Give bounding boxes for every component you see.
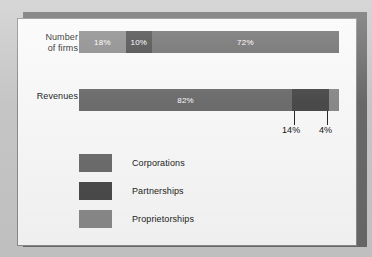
legend-swatch-proprietorships bbox=[79, 210, 112, 228]
bar-revenues: 82% 14% 4% bbox=[79, 89, 339, 111]
bar-segment-revenues-partnerships: 14% bbox=[292, 89, 328, 111]
bar-segment-value: 82% bbox=[177, 96, 194, 105]
legend-item-partnerships: Partnerships bbox=[79, 177, 319, 205]
bar-segment-value: 10% bbox=[130, 38, 147, 47]
bar-segment-firms-corporations: 72% bbox=[152, 31, 339, 53]
figure-panel: Number of firms 18% 10% 72% Revenues bbox=[17, 18, 357, 246]
bar-segment-value: 72% bbox=[237, 38, 254, 47]
legend-swatch-corporations bbox=[79, 154, 112, 172]
bar-segment-value: 18% bbox=[94, 38, 111, 47]
bar-segment-revenues-corporations: 82% bbox=[79, 89, 292, 111]
callout-label-proprietorships: 4% bbox=[319, 125, 332, 135]
legend-label-partnerships: Partnerships bbox=[132, 186, 184, 196]
legend-swatch-partnerships bbox=[79, 182, 112, 200]
row-label-line2: of firms bbox=[48, 43, 78, 53]
leader-line-14-percent bbox=[294, 111, 295, 125]
row-label-number-of-firms: Number of firms bbox=[22, 32, 78, 54]
legend-label-proprietorships: Proprietorships bbox=[132, 214, 194, 224]
callout-label-partnerships: 14% bbox=[282, 125, 300, 135]
row-label-line1: Number bbox=[45, 32, 78, 42]
stacked-bar-chart: Number of firms 18% 10% 72% Revenues bbox=[18, 19, 356, 245]
chart-legend: Corporations Partnerships Proprietorship… bbox=[79, 149, 319, 233]
bar-number-of-firms: 18% 10% 72% bbox=[79, 31, 339, 53]
revenues-callouts: 14% 4% bbox=[79, 111, 347, 143]
row-label-revenues: Revenues bbox=[22, 91, 78, 102]
bar-segment-firms-proprietorships: 18% bbox=[79, 31, 126, 53]
bar-segment-revenues-proprietorships: 4% bbox=[329, 89, 339, 111]
legend-item-corporations: Corporations bbox=[79, 149, 319, 177]
bar-segment-firms-partnerships: 10% bbox=[126, 31, 152, 53]
legend-item-proprietorships: Proprietorships bbox=[79, 205, 319, 233]
legend-label-corporations: Corporations bbox=[132, 158, 185, 168]
scanned-figure-page: Number of firms 18% 10% 72% Revenues bbox=[0, 0, 372, 257]
leader-line-4-percent bbox=[327, 111, 328, 125]
